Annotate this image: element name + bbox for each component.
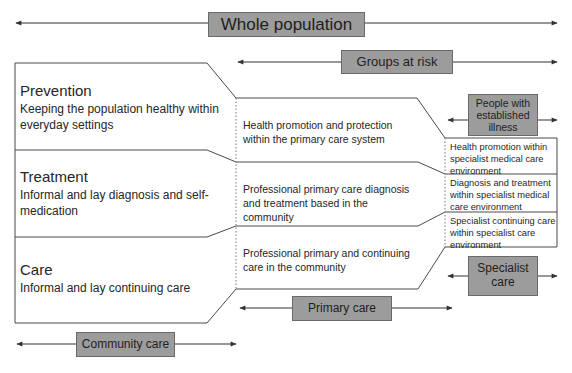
primary-treatment-text: Professional primary care diagnosis and … bbox=[243, 182, 418, 225]
primary-care-text: Professional primary and continuing care… bbox=[243, 246, 413, 274]
specialist-care-label: Specialist care bbox=[468, 256, 538, 296]
primary-care-label: Primary care bbox=[292, 296, 392, 321]
groups-at-risk-label: Groups at risk bbox=[341, 50, 453, 74]
row-title-treatment: Treatment bbox=[20, 168, 88, 185]
community-prevention-text: Keeping the population healthy within ev… bbox=[20, 102, 220, 133]
specialist-prevention-text: Health promotion within specialist medic… bbox=[446, 139, 557, 177]
specialist-care-text: Specialist continuing care within specia… bbox=[446, 213, 557, 251]
established-illness-label: People with established illness bbox=[468, 94, 538, 136]
community-care-text: Informal and lay continuing care bbox=[20, 281, 220, 297]
row-title-care: Care bbox=[20, 261, 53, 278]
row-title-prevention: Prevention bbox=[20, 82, 92, 99]
primary-prevention-text: Health promotion and protection within t… bbox=[243, 118, 413, 146]
community-treatment-text: Informal and lay diagnosis and self-medi… bbox=[20, 188, 220, 219]
specialist-treatment-text: Diagnosis and treatment within specialis… bbox=[446, 175, 557, 213]
community-care-label: Community care bbox=[76, 332, 175, 357]
whole-population-label: Whole population bbox=[208, 12, 365, 37]
